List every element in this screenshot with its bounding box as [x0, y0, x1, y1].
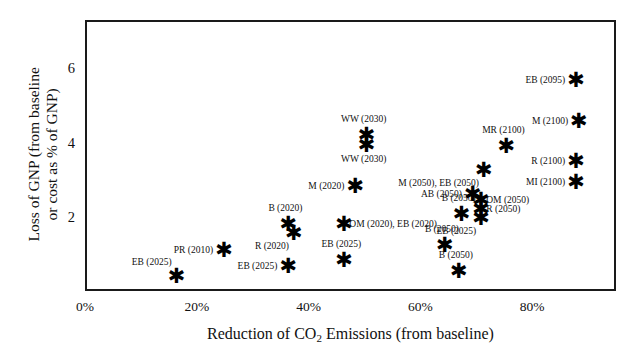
star-marker-icon: ✱ [453, 204, 465, 224]
star-marker-icon: ✱ [567, 172, 579, 192]
star-marker-icon: ✱ [215, 240, 227, 260]
data-point-label: EB (2025) [132, 258, 172, 268]
x-tick-label: 60% [396, 300, 444, 314]
x-axis-title-prefix: Reduction of CO [207, 325, 316, 342]
star-marker-icon: ✱ [285, 223, 297, 243]
star-marker-icon: ✱ [358, 135, 370, 155]
star-marker-icon: ✱ [279, 256, 291, 276]
plot-area: ✱EB (2025)✱PR (2010)✱B (2020)✱R (2020)✱E… [85, 20, 616, 291]
data-point-label: OM (2020), EB (2020) [349, 220, 437, 230]
data-point-label: R (2020) [255, 242, 289, 252]
data-point-label: EB (2025) [436, 227, 476, 237]
data-point-label: MI (2100) [526, 178, 565, 188]
data-point-label: WW (2030) [341, 155, 386, 165]
star-marker-icon: ✱ [567, 151, 579, 171]
x-tick-label: 0% [61, 300, 109, 314]
data-point-label: B (2050) [439, 251, 473, 261]
x-tick-label: 80% [508, 300, 556, 314]
star-marker-icon: ✱ [168, 266, 180, 286]
data-point-label: R (2050) [486, 205, 520, 215]
data-point-label: EB (2025) [321, 240, 361, 250]
star-marker-icon: ✱ [450, 261, 462, 281]
star-marker-icon: ✱ [475, 160, 487, 180]
x-tick-label: 20% [173, 300, 221, 314]
star-marker-icon: ✱ [567, 70, 579, 90]
star-marker-icon: ✱ [497, 136, 509, 156]
star-marker-icon: ✱ [570, 111, 582, 131]
data-point-label: EB (2025) [238, 262, 278, 272]
star-marker-icon: ✱ [472, 208, 484, 228]
scatter-chart-figure: 246 0%20%40%60%80% ✱EB (2025)✱PR (2010)✱… [0, 0, 634, 354]
y-axis-title-line1: Loss of GNP (from baseline [25, 67, 42, 241]
x-tick-label: 40% [285, 300, 333, 314]
data-point-label: WW (2030) [341, 115, 386, 125]
x-axis-title: Reduction of CO2 Emissions (from baselin… [85, 325, 616, 343]
star-marker-icon: ✱ [347, 176, 359, 196]
data-point-label: M (2100) [532, 117, 568, 127]
data-point-label: MR (2100) [482, 126, 525, 136]
data-point-label: PR (2010) [174, 246, 213, 256]
x-axis-title-subscript: 2 [316, 332, 322, 344]
data-point-label: AB (2050) [421, 190, 462, 200]
data-point-label: M (2050), EB (2050) [398, 179, 479, 189]
star-marker-icon: ✱ [335, 250, 347, 270]
data-point-label: M (2020) [308, 182, 344, 192]
x-axis-title-suffix: Emissions (from baseline) [322, 325, 494, 342]
star-marker-icon: ✱ [335, 214, 347, 234]
y-axis-title: Loss of GNP (from baseline or cost as % … [25, 9, 62, 299]
data-point-label: EB (2095) [525, 76, 565, 86]
y-axis-title-line2: or cost as % of GNP) [43, 88, 60, 220]
data-point-label: B (2020) [268, 204, 302, 214]
data-point-label: R (2100) [531, 157, 565, 167]
